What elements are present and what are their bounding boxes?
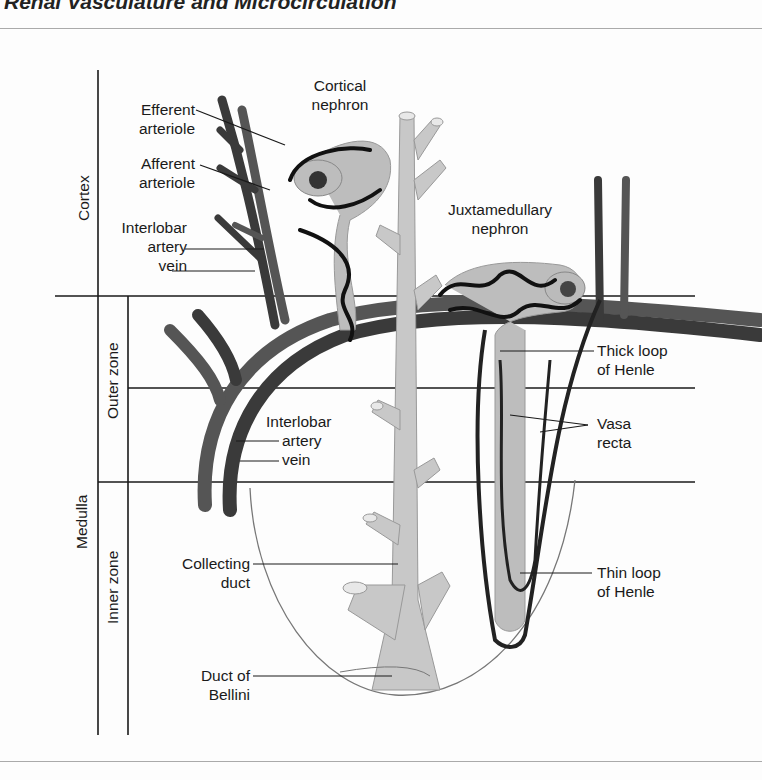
label-duct-of-bellini: Duct ofBellini: [150, 666, 250, 704]
label-cortical-nephron: Corticalnephron: [290, 76, 390, 114]
region-inner-zone: Inner zone: [104, 534, 122, 624]
label-collecting-duct: Collectingduct: [150, 554, 250, 592]
label-interlobar-medulla: Interlobar artery vein: [266, 412, 331, 469]
label-thin-loop-henle: Thin loopof Henle: [597, 563, 661, 601]
region-cortex: Cortex: [75, 141, 93, 221]
arcuate-vessels: [170, 303, 760, 510]
label-vasa-recta: Vasarecta: [597, 414, 631, 452]
label-afferent-arteriole: Afferentarteriole: [110, 154, 195, 192]
region-medulla: Medulla: [73, 469, 91, 549]
label-thick-loop-henle: Thick loopof Henle: [597, 341, 668, 379]
label-juxtamedullary-nephron: Juxtamedullarynephron: [435, 200, 565, 238]
region-outer-zone: Outer zone: [104, 329, 122, 419]
label-efferent-arteriole: Efferentarteriole: [110, 100, 195, 138]
label-interlobar-cortex: Interlobararteryvein: [95, 218, 187, 275]
